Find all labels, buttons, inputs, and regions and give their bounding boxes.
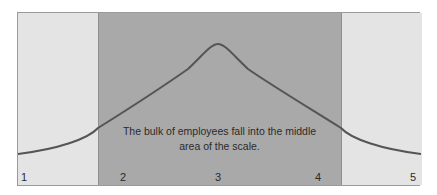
annotation-line-1: The bulk of employees fall into the midd…	[18, 124, 421, 139]
annotation-line-2: area of the scale.	[18, 139, 421, 154]
annotation-text: The bulk of employees fall into the midd…	[18, 124, 421, 154]
scale-label-3: 3	[215, 171, 221, 183]
scale-label-2: 2	[120, 171, 126, 183]
scale-label-4: 4	[315, 171, 321, 183]
bell-curve-diagram: The bulk of employees fall into the midd…	[17, 12, 420, 186]
scale-label-5: 5	[410, 171, 416, 183]
scale-label-1: 1	[21, 171, 27, 183]
distribution-curve	[18, 13, 421, 187]
